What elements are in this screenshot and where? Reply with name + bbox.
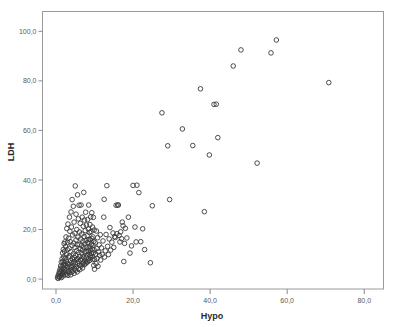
y-axis-title: LDH: [6, 143, 16, 162]
y-axis-ticks: 0,020,040,060,080,0100,0: [19, 28, 43, 283]
y-tick-label: 40,0: [23, 177, 37, 184]
x-tick-label: 80,0: [357, 297, 371, 304]
scatter-chart-panel: 0,020,040,060,080,0100,0 0,020,040,060,0…: [0, 0, 397, 327]
x-tick-label: 0,0: [51, 297, 61, 304]
y-tick-label: 0,0: [27, 276, 37, 283]
x-tick-label: 60,0: [280, 297, 294, 304]
x-tick-label: 20,0: [126, 297, 140, 304]
x-axis-ticks: 0,020,040,060,080,0: [51, 289, 371, 304]
y-tick-label: 80,0: [23, 77, 37, 84]
y-tick-label: 100,0: [19, 28, 37, 35]
scatter-plot: 0,020,040,060,080,0100,0 0,020,040,060,0…: [0, 0, 397, 327]
y-tick-label: 60,0: [23, 127, 37, 134]
y-tick-label: 20,0: [23, 226, 37, 233]
x-axis-title: Hypo: [201, 311, 224, 321]
x-tick-label: 40,0: [203, 297, 217, 304]
